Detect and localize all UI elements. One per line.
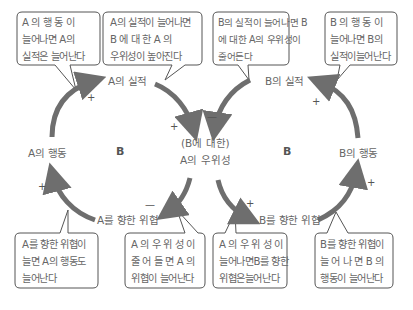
bubble-text-bottom-3: A 의 우 위 성 이 늘어나면B를 향한 위협은늘어난다 (219, 236, 289, 287)
sign-a-performance-to-a-superiority: + (170, 122, 178, 132)
sign-b-action-to-b-performance: + (312, 97, 320, 107)
arrow-b-action-to-b-performance (320, 82, 358, 138)
node-a-superiority: (B에 대한) A의 우위성 (180, 135, 231, 169)
sign-b-performance-to-a-superiority: — (207, 112, 217, 122)
arrow-a-action-to-a-performance (52, 81, 93, 137)
sign-a-superiority-to-threat-b: + (246, 199, 254, 209)
arrow-threat-a-to-a-action (53, 176, 95, 220)
arrow-a-superiority-to-threat-a (168, 178, 190, 212)
node-a-action: A의 행동 (28, 145, 67, 160)
bubble-text-bottom-1: A를 향한 위협이 늘면 A의 행동도 늘어난다 (22, 236, 86, 287)
bubble-text-top-1: A 의 행 동 이 늘어나면 A의 실적은 늘어난다 (22, 14, 85, 65)
node-b-action: B의 행동 (339, 145, 378, 160)
arrow-a-superiority-to-threat-b (218, 180, 248, 218)
node-threat-to-b: B를 향한 위협 (259, 212, 320, 227)
node-a-performance: A의 실적 (108, 73, 147, 88)
bubble-text-bottom-2: A 의 우 위 성 이 줄 어 들 면 A 의 위협이 늘어난다 (131, 236, 195, 287)
arrow-b-performance-to-a-superiority (215, 80, 250, 128)
bubble-text-bottom-4: B를 향한 위협이 늘 어 나 면 B 의 행동이 늘어난다 (320, 236, 384, 287)
sign-a-superiority-to-threat-a: — (145, 200, 155, 210)
node-b-performance: B의 실적 (265, 73, 304, 88)
sign-a-action-to-a-performance: + (87, 93, 95, 103)
sign-threat-a-to-a-action: + (38, 182, 46, 192)
bubble-text-top-3: B의 실적이 늘어나면 B 에 대한 A의 우위성이 줄어든다 (218, 14, 307, 65)
bubble-text-top-2: A의 실적이 늘어나면 B 에 대 한 A 의 우위성이 높아진다 (110, 14, 191, 65)
bubble-text-top-4: B 의 행 동 이 늘어나면 B의 실적이늘어난다 (330, 14, 390, 65)
sign-threat-b-to-b-action: + (367, 178, 375, 188)
node-threat-to-a: A를 향한 위협 (97, 212, 158, 227)
loop-label-right: B (283, 145, 291, 158)
loop-label-left: B (116, 145, 124, 158)
